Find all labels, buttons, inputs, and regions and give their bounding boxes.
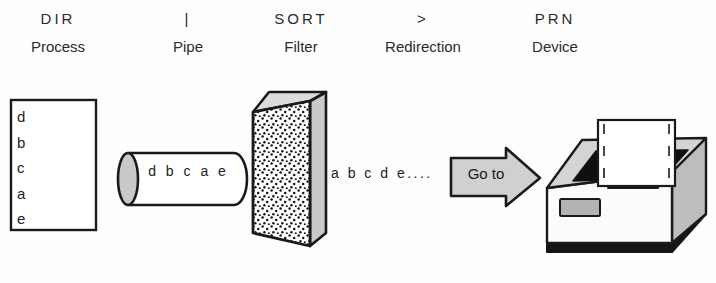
printer-display bbox=[560, 199, 600, 216]
printer bbox=[547, 120, 706, 252]
printer-paper bbox=[598, 120, 675, 186]
redirection-stream: a b c d e.... bbox=[331, 165, 433, 181]
process-line-2: c bbox=[17, 155, 57, 181]
process-line-0: d bbox=[17, 104, 57, 130]
process-line-3: a bbox=[17, 181, 57, 207]
process-line-1: b bbox=[17, 130, 57, 156]
sort-filter-slab bbox=[253, 92, 326, 246]
diagram-artwork bbox=[0, 0, 716, 283]
process-line-4: e bbox=[17, 206, 57, 232]
pipe-cylinder bbox=[118, 153, 247, 205]
pipe-contents: d b c a e bbox=[141, 163, 236, 179]
go-to-arrow-label: Go to bbox=[452, 165, 520, 182]
diagram-canvas: DIR Process | Pipe SORT Filter > Redirec… bbox=[0, 0, 716, 283]
process-box-listing: d b c a e bbox=[17, 104, 57, 232]
